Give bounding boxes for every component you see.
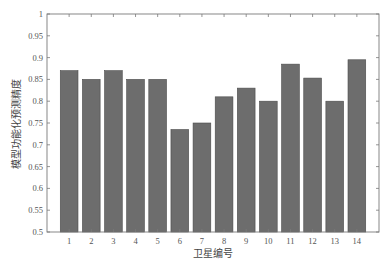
x-tick-label: 3 — [111, 236, 115, 246]
bar-satellite-7 — [193, 123, 211, 232]
x-tick-label: 9 — [244, 236, 248, 246]
y-tick-label: 0.95 — [28, 31, 43, 41]
y-tick-label: 0.75 — [28, 118, 43, 128]
x-tick-label: 13 — [330, 236, 339, 246]
bar-satellite-8 — [215, 97, 233, 232]
bar-satellite-1 — [60, 71, 78, 232]
bar-chart: 0.50.550.60.650.70.750.80.850.90.951 123… — [0, 0, 391, 269]
y-tick-label: 0.85 — [28, 74, 43, 84]
bars-group — [60, 60, 365, 232]
bar-satellite-9 — [237, 88, 255, 232]
y-tick-label: 0.9 — [32, 53, 43, 63]
y-axis-label: 模型功能化预测精度 — [10, 79, 22, 169]
bar-satellite-3 — [105, 71, 123, 232]
bar-satellite-13 — [326, 101, 344, 232]
x-tick-label: 11 — [286, 236, 294, 246]
x-tick-label: 6 — [178, 236, 182, 246]
y-tick-label: 0.65 — [28, 162, 43, 172]
x-tick-label: 14 — [353, 236, 362, 246]
x-tick-label: 8 — [222, 236, 226, 246]
bar-satellite-14 — [348, 60, 366, 232]
bar-satellite-5 — [149, 79, 167, 232]
y-tick-label: 0.5 — [32, 227, 43, 237]
x-axis-label: 卫星编号 — [193, 247, 233, 259]
bar-satellite-6 — [171, 130, 189, 232]
bar-satellite-11 — [282, 64, 300, 232]
bar-satellite-12 — [304, 78, 322, 232]
y-tick-label: 0.8 — [32, 96, 43, 106]
bar-satellite-10 — [259, 101, 277, 232]
x-tick-label: 10 — [264, 236, 273, 246]
x-tick-label: 7 — [200, 236, 204, 246]
x-tick-label: 5 — [156, 236, 160, 246]
y-tick-label: 0.6 — [32, 183, 43, 193]
y-tick-label: 0.55 — [28, 205, 43, 215]
y-tick-label: 0.7 — [32, 140, 43, 150]
x-tick-label: 2 — [89, 236, 93, 246]
y-tick-label: 1 — [39, 9, 43, 19]
bar-satellite-2 — [82, 79, 100, 232]
x-tick-label: 4 — [133, 236, 138, 246]
x-tick-label: 12 — [308, 236, 317, 246]
bar-satellite-4 — [127, 79, 145, 232]
x-tick-label: 1 — [67, 236, 71, 246]
